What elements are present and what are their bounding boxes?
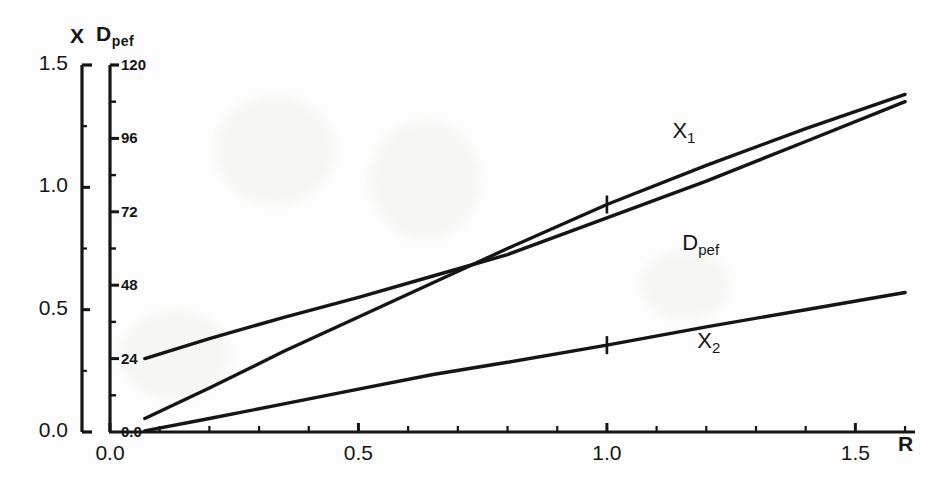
axes-group [82,65,915,432]
right-axis-title: Dpef [96,22,134,49]
x-axis-tick-label: 1.5 [825,441,885,465]
left-axis-title: X [70,24,85,48]
curve-label-d-pef: Dpef [682,230,719,258]
right-axis-title-sub: pef [112,33,135,49]
curve-label-main: D [682,230,698,255]
secondary-axis-tick-label: 96 [121,129,138,146]
curve-label-main: X [672,118,687,143]
y-axis-tick-label: 1.5 [14,51,68,75]
curve-label-subscript: 2 [712,339,720,356]
secondary-axis-tick-label: 72 [121,203,138,220]
curve-x-1 [145,94,905,418]
secondary-axis-tick-label: 24 [121,350,138,367]
curve-label-subscript: 1 [687,129,695,146]
curve-label-x-1: X1 [672,118,695,146]
curve-label-subscript: pef [698,241,719,258]
curve-label-x-2: X2 [697,328,720,356]
secondary-axis-tick-label: 120 [121,56,146,73]
curve-x-2 [145,293,905,431]
y-axis-tick-label: 1.0 [14,173,68,197]
y-axis-tick-label: 0.0 [14,418,68,442]
curve-d-pef [145,102,905,359]
y-axis-tick-label: 0.5 [14,296,68,320]
right-axis-title-main: D [96,22,112,45]
x-axis-title: R [898,432,914,456]
chart-figure: X Dpef R 0.00.51.01.50.0244872961200.00.… [0,0,926,484]
secondary-axis-tick-label: 48 [121,276,138,293]
curve-label-main: X [697,328,712,353]
secondary-axis-tick-label: 0.0 [121,423,142,440]
x-axis-tick-label: 0.5 [328,441,388,465]
x-axis-tick-label: 1.0 [577,441,637,465]
curves-group [145,94,905,430]
x-axis-tick-label: 0.0 [80,441,140,465]
